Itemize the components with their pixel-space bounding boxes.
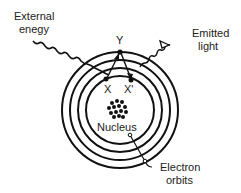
atom-energy-diagram: External enegy Emitted light Electron or… <box>0 0 241 193</box>
label-x: X <box>104 83 112 95</box>
label-external-line1: External <box>14 10 54 22</box>
label-electron-orbits-line2: orbits <box>166 174 193 186</box>
label-nucleus: Nucleus <box>97 121 137 133</box>
label-electron-orbits-line1: Electron <box>160 161 200 173</box>
label-y: Y <box>116 34 124 46</box>
nucleus-particles <box>107 99 128 119</box>
label-x-prime: X' <box>124 83 133 95</box>
label-emitted-line1: Emitted <box>192 27 229 39</box>
external-energy-wave <box>33 41 109 75</box>
electron-x-prime <box>129 78 134 83</box>
label-external-line2: enegy <box>19 23 49 35</box>
emitted-light-arrowhead <box>160 41 169 48</box>
label-emitted-line2: light <box>198 40 218 52</box>
